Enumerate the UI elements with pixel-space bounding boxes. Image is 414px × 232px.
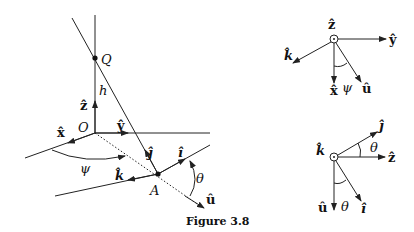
inset-top-k-arrow <box>293 42 331 63</box>
inset-bottom-label-u-hat: û <box>318 200 327 215</box>
theta-arc <box>190 161 195 196</box>
z-out-of-page-dot <box>333 38 335 40</box>
label-z-hat: ẑ <box>80 98 87 113</box>
label-psi: ψ <box>80 161 91 176</box>
inset-bottom-label-k-hat: k̂ <box>316 142 325 158</box>
inset-bottom-label-z-hat: ẑ <box>388 150 395 165</box>
label-k-hat: k̂ <box>115 167 124 183</box>
figure-3-8-diagram: Q h ẑ O x̂ ŷ ĵ î k̂ ψ A θ û ẑ ŷ k̂ x̂ ψ … <box>0 0 414 232</box>
inset-top-label-psi: ψ <box>342 80 353 95</box>
inset-bottom-theta-arc-lower <box>334 180 346 184</box>
label-x-hat: x̂ <box>57 125 65 140</box>
label-q: Q <box>101 52 112 67</box>
label-u-hat: û <box>206 192 215 207</box>
figure-caption: Figure 3.8 <box>186 215 250 228</box>
point-q <box>92 55 97 60</box>
label-o: O <box>78 120 89 135</box>
inset-top-label-k-hat: k̂ <box>284 47 293 63</box>
inset-bottom-label-i-hat: î <box>361 201 367 216</box>
inset-top-label-z-hat: ẑ <box>328 17 335 32</box>
inset-top-label-u-hat: û <box>362 81 371 96</box>
inset-bottom-label-theta-2: θ <box>341 199 349 214</box>
label-j-hat: ĵ <box>146 145 153 160</box>
main-diagram: Q h ẑ O x̂ ŷ ĵ î k̂ ψ A θ û <box>25 15 215 208</box>
label-h: h <box>99 83 107 98</box>
label-i-hat: î <box>178 145 184 160</box>
inset-bottom: k̂ ĵ θ ẑ û θ î <box>316 118 395 216</box>
inset-top-psi-arc <box>334 63 347 67</box>
inset-top-label-x-hat: x̂ <box>330 83 338 98</box>
oa-dotted-line <box>95 133 200 206</box>
k-out-of-page-dot <box>333 156 335 158</box>
inset-top-label-y-hat: ŷ <box>388 32 397 47</box>
point-a <box>155 171 160 176</box>
inset-bottom-label-theta-1: θ <box>370 140 378 155</box>
psi-arc <box>52 150 125 159</box>
label-theta: θ <box>196 171 204 186</box>
label-y-hat: ŷ <box>116 118 125 133</box>
k-hat-arrow <box>128 174 158 180</box>
inset-bottom-theta-arc-upper <box>358 143 361 157</box>
label-a: A <box>149 183 159 198</box>
inset-top: ẑ ŷ k̂ x̂ ψ û <box>284 17 397 98</box>
inset-top-u-arrow <box>336 43 361 82</box>
inset-bottom-label-j-hat: ĵ <box>377 118 384 133</box>
i-hat-arrow <box>158 159 185 174</box>
inset-bottom-i-arrow <box>336 161 361 201</box>
u-hat-arrow <box>185 196 204 208</box>
